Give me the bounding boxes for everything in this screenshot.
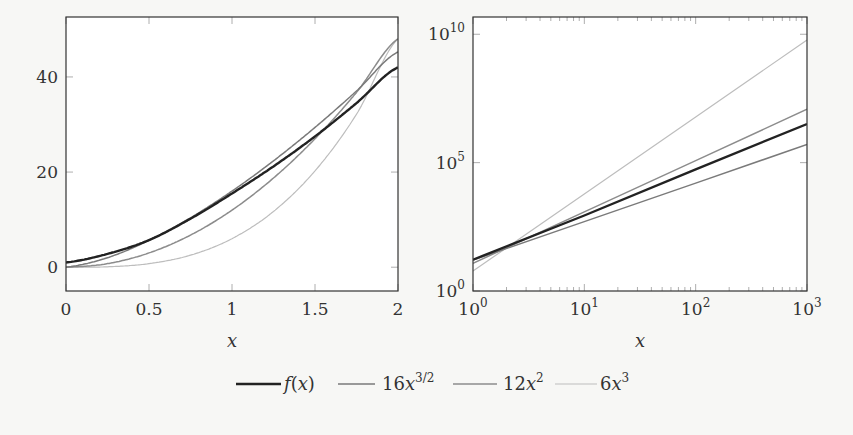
x-axis-label: x [227,330,237,351]
right-plot-loglog: 1001011021031001051010x [428,17,822,351]
plot-area [473,17,807,291]
x-tick-label: 0 [61,299,72,319]
legend-item: 6x3 [555,371,629,394]
plot-area [66,17,398,291]
x-tick-label: 102 [681,296,710,319]
chart-figure: 00.511.5202040x 1001011021031001051010x … [0,0,853,435]
legend-item: 16x3/2 [338,371,434,394]
x-tick-label: 100 [458,296,487,319]
y-tick-label: 0 [47,257,58,277]
y-tick-label: 40 [36,67,58,87]
legend-label: 12x2 [503,371,544,394]
x-tick-label: 0.5 [135,299,162,319]
legend-label: f(x) [282,373,315,394]
y-tick-label: 20 [36,162,58,182]
x-axis-label: x [635,330,645,351]
x-tick-label: 101 [570,296,599,319]
y-tick-label: 1010 [428,21,465,44]
x-tick-label: 1 [227,299,238,319]
legend-label: 16x3/2 [382,371,434,394]
legend-item: 12x2 [453,371,544,394]
x-tick-label: 2 [393,299,404,319]
x-tick-label: 103 [792,296,821,319]
x-tick-label: 1.5 [301,299,328,319]
legend: f(x)16x3/212x26x3 [236,371,629,394]
legend-item: f(x) [236,373,315,394]
left-plot-linear: 00.511.5202040x [36,17,403,351]
y-tick-label: 100 [436,278,465,301]
legend-label: 6x3 [600,371,629,394]
y-tick-label: 105 [436,150,465,173]
